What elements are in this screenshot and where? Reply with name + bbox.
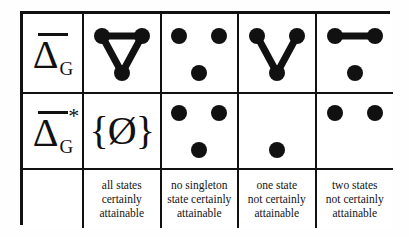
delta-subscript: G: [60, 59, 74, 78]
cell-triangle-graph: [83, 14, 161, 93]
row-label-delta-g-star: * Δ G: [23, 93, 83, 169]
caption-text: two states not certainly attainable: [317, 178, 394, 220]
blank-corner-cell: [23, 169, 83, 228]
cell-empty-set-singleton: {Ø}: [83, 93, 161, 169]
cell-single-edge-plus-isolated-graph: [316, 14, 394, 93]
delta-subscript: G: [60, 137, 74, 156]
cell-two-isolated-vertices-graph: [316, 93, 394, 169]
table-row: all states certainly attainable no singl…: [23, 169, 393, 228]
caption-cell-col-4: two states not certainly attainable: [316, 169, 394, 228]
comparison-table: Δ G: [20, 11, 390, 225]
three-isolated-vertices-graph: [164, 97, 234, 165]
cell-single-vertex-graph: [238, 93, 316, 169]
caption-cell-col-2: no singleton state certainly attainable: [161, 169, 239, 228]
cell-three-isolated-vertices-top: [161, 14, 239, 93]
caption-line: not certainly: [319, 192, 392, 206]
empty-set-symbol: {Ø}: [90, 108, 154, 153]
single-vertex-graph: [242, 97, 312, 165]
delta-g-star-symbol: * Δ G: [33, 111, 72, 152]
cell-path-v-graph: [238, 14, 316, 93]
caption-cell-col-1: all states certainly attainable: [83, 169, 161, 228]
caption-line: attainable: [319, 206, 392, 220]
grid: Δ G: [23, 14, 393, 228]
single-edge-plus-isolated-graph: [320, 18, 390, 88]
caption-line: all states: [86, 178, 158, 192]
star-superscript: *: [68, 105, 79, 127]
delta-g-symbol: Δ G: [33, 33, 72, 74]
caption-line: no singleton: [164, 178, 236, 192]
triangle-graph: [87, 18, 157, 88]
table-row: Δ G: [23, 14, 393, 93]
caption-line: attainable: [241, 206, 313, 220]
caption-text: one state not certainly attainable: [239, 178, 315, 220]
table-row: * Δ G {Ø}: [23, 93, 393, 169]
caption-cell-col-3: one state not certainly attainable: [238, 169, 316, 228]
caption-line: not certainly: [241, 192, 313, 206]
delta-glyph: Δ: [33, 37, 59, 74]
row-label-delta-g: Δ G: [23, 14, 83, 93]
caption-text: no singleton state certainly attainable: [162, 178, 238, 220]
three-isolated-vertices-graph: [164, 18, 234, 88]
two-isolated-vertices-graph: [320, 97, 390, 165]
figure-root: Δ G: [0, 0, 409, 237]
caption-line: two states: [319, 178, 392, 192]
cell-three-isolated-vertices-bottom: [161, 93, 239, 169]
caption-line: state certainly: [164, 192, 236, 206]
delta-glyph: Δ: [33, 115, 59, 152]
caption-line: attainable: [164, 206, 236, 220]
caption-line: certainly: [86, 192, 158, 206]
path-v-graph: [242, 18, 312, 88]
caption-line: attainable: [86, 206, 158, 220]
caption-line: one state: [241, 178, 313, 192]
caption-text: all states certainly attainable: [84, 178, 160, 220]
